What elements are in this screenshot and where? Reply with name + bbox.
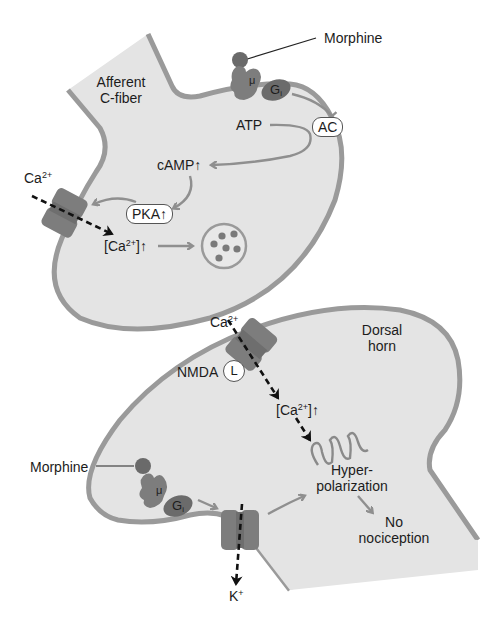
morphine-label-bottom: Morphine [30, 459, 88, 475]
dorsal-label-line1: Dorsal [354, 322, 410, 338]
calcium-charge-bottom: 2+ [228, 314, 238, 324]
camp-label: cAMP↑ [157, 157, 201, 173]
intracellular-calcium-label-bottom: [Ca2+]↑ [276, 402, 319, 418]
ca-charge-bottom: 2+ [298, 402, 308, 412]
nmda-label: NMDA [177, 364, 218, 380]
calcium-symbol: Ca [24, 170, 42, 186]
hyperpolarization-line2: polarization [312, 478, 392, 494]
gi-label-top: Gi [270, 82, 282, 98]
ca-increase-bottom: ]↑ [308, 402, 319, 418]
no-nociception-label: No nociception [354, 514, 434, 546]
calcium-ion-label-top: Ca2+ [24, 170, 52, 186]
ca-bracket-bottom: [Ca [276, 402, 298, 418]
ca-bracket: [Ca [104, 238, 126, 254]
calcium-symbol-bottom: Ca [210, 314, 228, 330]
dorsal-label-line2: horn [354, 338, 410, 354]
gi-subscript: i [280, 89, 282, 98]
ca-charge: 2+ [126, 238, 136, 248]
atp-label: ATP [236, 117, 262, 133]
no-nociception-line1: No [354, 514, 434, 530]
morphine-molecule-icon [232, 52, 248, 68]
afferent-label-line2: C-fiber [90, 90, 152, 106]
ca-increase: ]↑ [136, 238, 147, 254]
afferent-label-line1: Afferent [90, 74, 152, 90]
morphine-label-top: Morphine [324, 30, 382, 46]
potassium-symbol: K [229, 588, 238, 604]
no-nociception-line2: nociception [354, 530, 434, 546]
intracellular-calcium-label-top: [Ca2+]↑ [104, 238, 147, 254]
adenylyl-cyclase-box: AC [312, 117, 343, 137]
neurotransmitter-vesicle-icon [202, 224, 246, 268]
calcium-charge: 2+ [42, 170, 52, 180]
hyperpolarization-line1: Hyper- [312, 462, 392, 478]
morphine-molecule-icon-lower [135, 458, 151, 474]
gi-label-bottom: Gi [172, 498, 184, 514]
potassium-charge: + [238, 588, 243, 598]
gi-letter-bottom: G [172, 498, 182, 513]
afferent-c-fiber-label: Afferent C-fiber [90, 74, 152, 106]
hyperpolarization-label: Hyper- polarization [312, 462, 392, 494]
potassium-ion-label: K+ [229, 588, 244, 604]
gi-subscript-bottom: i [182, 505, 184, 514]
mu-receptor-label-bottom: μ [156, 484, 162, 496]
ligand-circle: L [223, 360, 245, 382]
morphine-pointer-line [244, 38, 316, 60]
mu-receptor-label-top: μ [249, 74, 255, 86]
calcium-ion-label-bottom: Ca2+ [210, 314, 238, 330]
dorsal-horn-label: Dorsal horn [354, 322, 410, 354]
gi-letter: G [270, 82, 280, 97]
pka-box: PKA↑ [126, 204, 173, 224]
